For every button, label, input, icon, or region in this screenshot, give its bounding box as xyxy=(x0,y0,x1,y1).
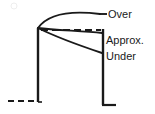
label-under: Under xyxy=(106,51,136,62)
over-curve xyxy=(38,13,100,28)
label-approx: Approx. xyxy=(106,35,144,46)
label-over: Over xyxy=(108,9,132,20)
scan-artifact-speck xyxy=(11,3,17,9)
diagram-canvas: Over Approx. Under xyxy=(0,0,155,114)
